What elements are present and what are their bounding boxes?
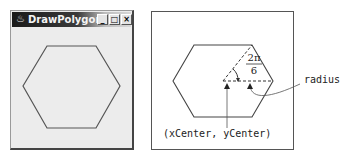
radius-pointer-curve bbox=[250, 84, 300, 96]
angle-denominator: 6 bbox=[246, 65, 262, 76]
angle-numerator: 2π bbox=[246, 52, 262, 63]
center-label: (xCenter, yCenter) bbox=[163, 128, 271, 139]
radius-arrowhead bbox=[247, 83, 253, 89]
radius-label: radius bbox=[304, 74, 340, 85]
center-arrowhead bbox=[224, 83, 230, 89]
